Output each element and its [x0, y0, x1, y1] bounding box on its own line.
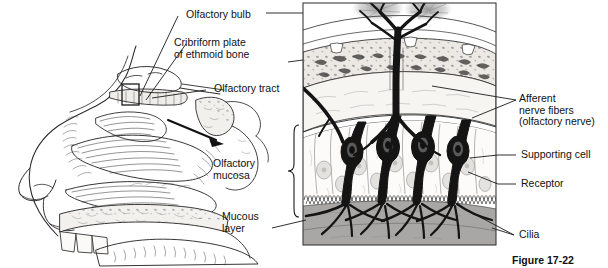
- magnified-panel-content: [303, 0, 498, 245]
- olfactory-figure: [0, 0, 608, 268]
- label-mucous-layer: Mucous layer: [222, 211, 259, 234]
- label-olfactory-bulb: Olfactory bulb: [186, 9, 251, 21]
- figure-caption: Figure 17-22: [512, 254, 574, 266]
- label-cilia: Cilia: [519, 229, 539, 241]
- label-receptor: Receptor: [521, 178, 564, 190]
- label-afferent-nerve-fibers: Afferent nerve fibers (olfactory nerve): [519, 93, 595, 128]
- mucous-layer-fill: [303, 201, 496, 245]
- label-olfactory-mucosa: Olfactory mucosa: [213, 158, 255, 181]
- label-cribriform-plate: Cribriform plate of ethmoid bone: [174, 37, 249, 60]
- label-olfactory-tract: Olfactory tract: [214, 83, 279, 95]
- label-supporting-cell: Supporting cell: [521, 149, 590, 161]
